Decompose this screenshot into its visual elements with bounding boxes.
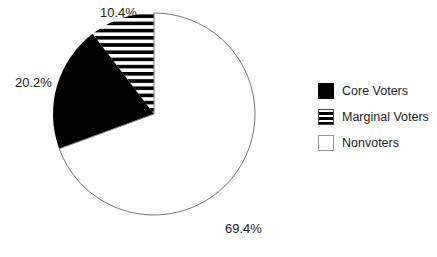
slice-label-core: 20.2% — [15, 75, 52, 90]
legend: Core Voters Marginal Voters Nonvoters — [318, 78, 429, 156]
marginal-voters-swatch-icon — [318, 109, 334, 125]
legend-label: Marginal Voters — [342, 110, 429, 124]
legend-label: Nonvoters — [342, 136, 399, 150]
slice-label-nonvoters: 69.4% — [225, 221, 262, 236]
nonvoters-swatch-icon — [318, 135, 334, 151]
slice-label-marginal: 10.4% — [100, 5, 137, 20]
legend-item-core: Core Voters — [318, 78, 429, 104]
core-voters-swatch-icon — [318, 83, 334, 99]
legend-item-marginal: Marginal Voters — [318, 104, 429, 130]
legend-item-nonvoters: Nonvoters — [318, 130, 429, 156]
legend-label: Core Voters — [342, 84, 408, 98]
